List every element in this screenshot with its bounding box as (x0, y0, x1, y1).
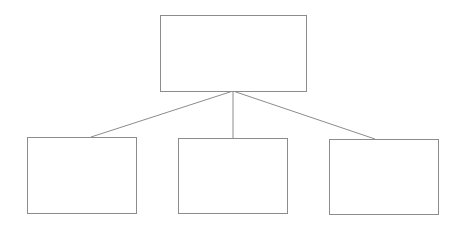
root-node-box (160, 15, 307, 92)
child-node-box-2 (178, 138, 288, 214)
child-node-box-1 (27, 137, 137, 214)
connector-root-to-child-1 (91, 91, 233, 137)
tree-diagram (0, 0, 460, 229)
connector-root-to-child-3 (233, 91, 375, 139)
child-node-box-3 (329, 139, 439, 215)
